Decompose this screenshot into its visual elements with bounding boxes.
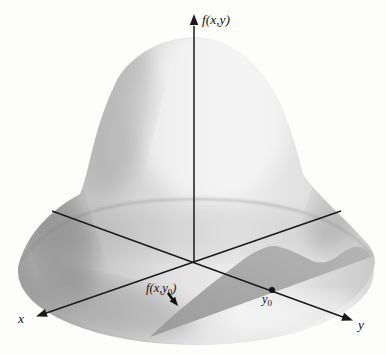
y0-point-marker [269, 287, 275, 293]
figure-page: f(x,y) x y y0 f(x,y0) [0, 0, 386, 355]
surface-figure: f(x,y) x y y0 f(x,y0) [0, 0, 386, 355]
slice-label: f(x,y0) [146, 281, 177, 297]
x-axis-label: x [17, 311, 24, 326]
y-axis-arrowhead [341, 313, 354, 325]
y-axis-label: y [356, 317, 364, 332]
z-axis-arrowhead [190, 14, 198, 25]
z-axis-label: f(x,y) [202, 12, 231, 27]
